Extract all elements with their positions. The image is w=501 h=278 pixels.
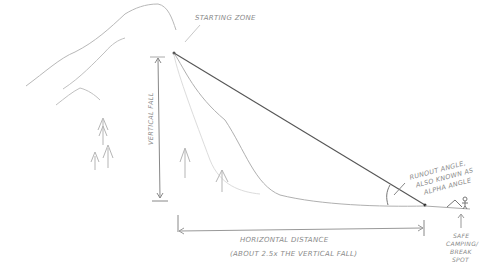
tent-icon (447, 200, 462, 207)
safe-label-1: SAFE (453, 232, 469, 239)
alpha-angle-arc (387, 185, 390, 205)
mountain-ridge (26, 4, 176, 86)
safe-label-3: BREAK (450, 248, 472, 255)
safe-label-2: CAMPING/ (446, 240, 479, 247)
mountain-inner-ridge-1 (63, 38, 125, 89)
person-icon (462, 197, 468, 209)
vertical-fall-label: VERTICAL FALL (147, 92, 155, 145)
avalanche-diagram: STARTING ZONE RUNOUT ANGLE, ALSO KNOWN A… (0, 0, 501, 278)
mountain-inner-ridge-2 (56, 88, 100, 105)
starting-zone-label: STARTING ZONE (195, 14, 256, 22)
starting-zone-arrow (185, 25, 200, 42)
avalanche-path-shadow (174, 55, 260, 194)
vertical-fall-line (158, 58, 160, 198)
horizontal-distance-note: (ABOUT 2.5x THE VERTICAL FALL) (230, 250, 357, 258)
horizontal-distance-line (179, 228, 423, 231)
horizontal-distance-label: HORIZONTAL DISTANCE (240, 236, 329, 244)
safe-label-4: SPOT (452, 256, 470, 263)
alpha-line (174, 53, 425, 205)
angle-label-arrow (394, 183, 405, 195)
